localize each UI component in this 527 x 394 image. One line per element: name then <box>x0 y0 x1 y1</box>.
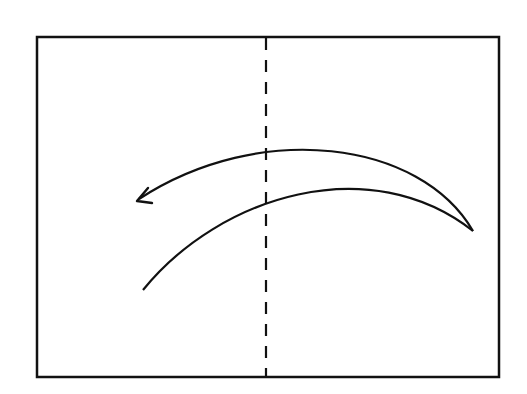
fold-arrow-upper-arc <box>139 150 473 231</box>
paper-rectangle <box>37 37 499 377</box>
fold-arrow-lower-arc <box>143 189 473 290</box>
fold-diagram <box>0 0 527 394</box>
